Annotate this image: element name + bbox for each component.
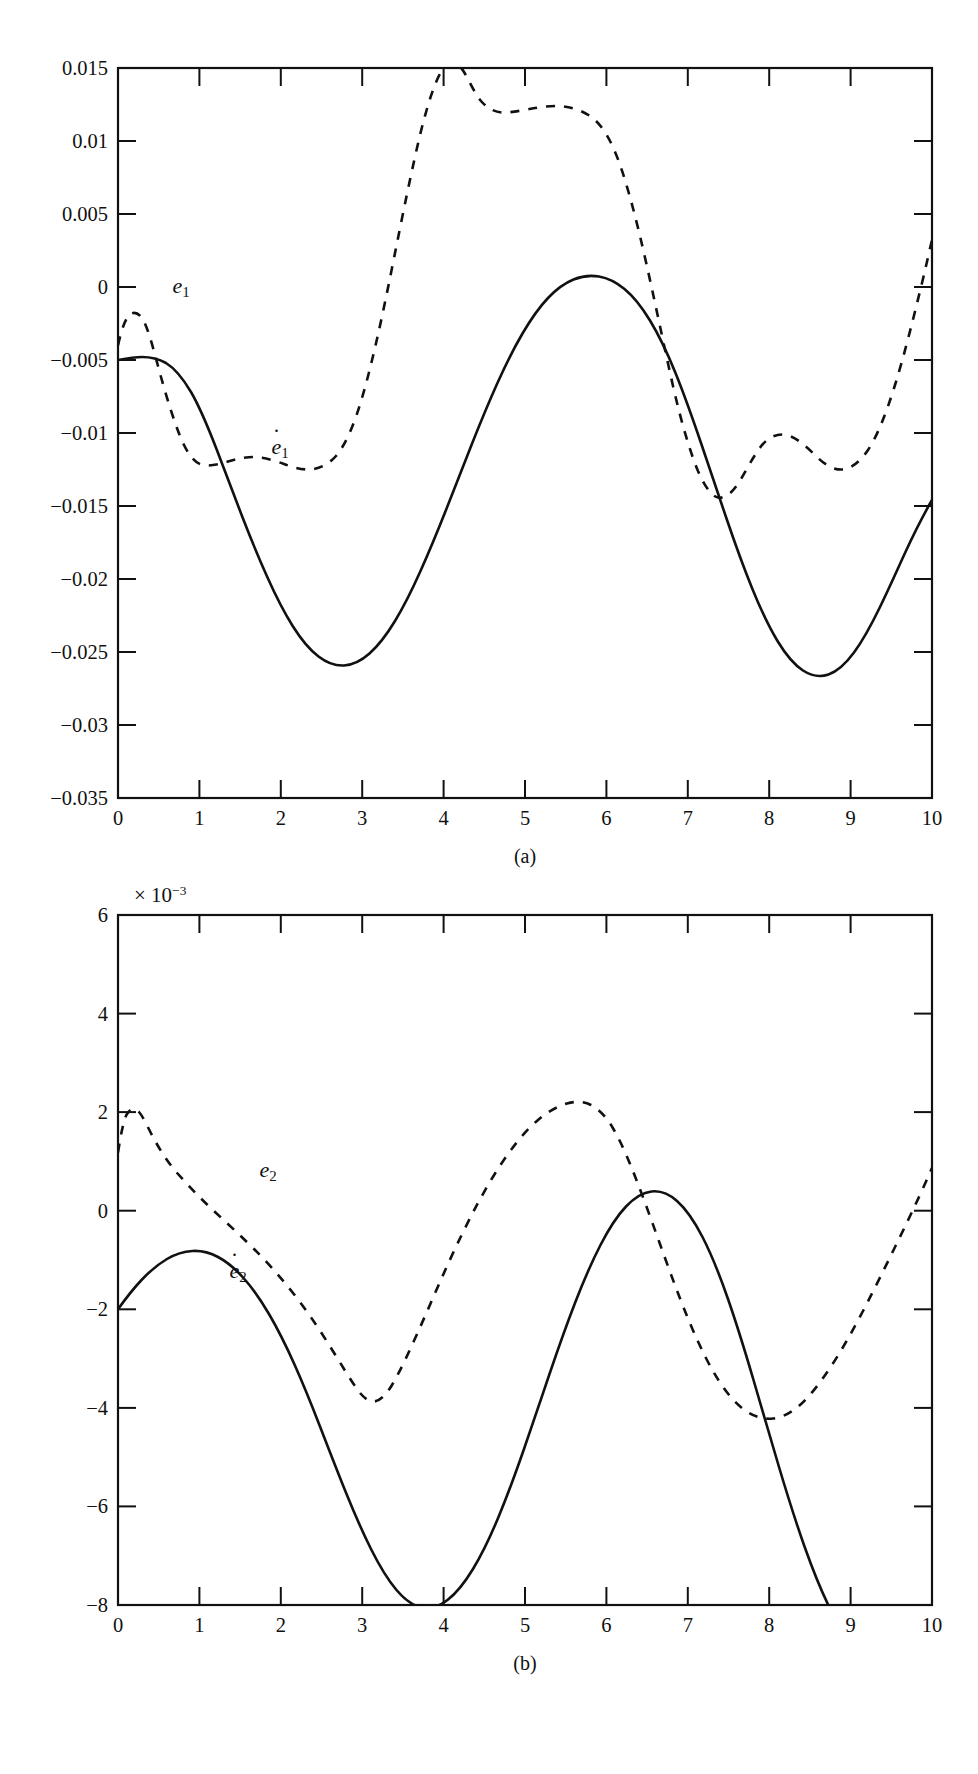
xtick-label-a-1: 1 [194, 808, 204, 829]
ytick-label-b-3: 0 [4, 1200, 108, 1221]
curve-label-e2-dot: ·e2 [229, 1258, 246, 1286]
ytick-label-a-8: −0.025 [4, 642, 108, 663]
ytick-label-a-10: −0.035 [4, 788, 108, 809]
ytick-label-a-6: −0.015 [4, 496, 108, 517]
y-ticks-a [118, 141, 136, 725]
ytick-label-b-6: −6 [4, 1496, 108, 1517]
xtick-label-a-8: 8 [764, 808, 774, 829]
xtick-label-b-4: 4 [438, 1615, 448, 1636]
ytick-label-a-2: 0.005 [4, 204, 108, 225]
y-ticks-b [118, 1014, 136, 1507]
x-ticks-b [199, 1587, 850, 1605]
xtick-label-b-2: 2 [276, 1615, 286, 1636]
derivative-dot-icon: · [231, 1245, 238, 1266]
xtick-label-b-10: 10 [922, 1615, 943, 1636]
xtick-label-b-9: 9 [845, 1615, 855, 1636]
ytick-label-b-4: −2 [4, 1299, 108, 1320]
curve-e1dot [118, 64, 932, 498]
plot-panel-b: × 10−3 6 4 2 0 −2 −4 −6 −8 0 1 2 3 4 5 6… [0, 880, 978, 1774]
ytick-label-b-7: −8 [4, 1595, 108, 1616]
axes-frame-a [118, 68, 932, 798]
x-ticks-a [199, 780, 850, 798]
xtick-label-b-8: 8 [764, 1615, 774, 1636]
plot-panel-a: 0.015 0.01 0.005 0 −0.005 −0.01 −0.015 −… [0, 0, 978, 880]
curve-e1 [118, 276, 932, 676]
xtick-label-b-0: 0 [113, 1615, 123, 1636]
ytick-label-a-9: −0.03 [4, 715, 108, 736]
curve-label-e1: e1 [172, 273, 189, 301]
plot-a-frame [118, 68, 932, 798]
scientific-figure: 0.015 0.01 0.005 0 −0.005 −0.01 −0.015 −… [0, 0, 978, 1774]
y-ticks-right-a [914, 141, 932, 725]
ytick-label-b-2: 2 [4, 1102, 108, 1123]
axis-multiplier-b: × 10−3 [134, 883, 186, 908]
xtick-label-b-3: 3 [357, 1615, 367, 1636]
ytick-label-a-7: −0.02 [4, 569, 108, 590]
plot-b-canvas [0, 880, 978, 1774]
ytick-label-a-1: 0.01 [4, 131, 108, 152]
ytick-label-b-5: −4 [4, 1398, 108, 1419]
xtick-label-a-3: 3 [357, 808, 367, 829]
curve-label-e2: e2 [259, 1157, 276, 1185]
x-ticks-top-b [199, 915, 850, 933]
y-ticks-right-b [914, 1014, 932, 1507]
xtick-label-a-2: 2 [276, 808, 286, 829]
ytick-label-a-0: 0.015 [4, 58, 108, 79]
xtick-label-a-4: 4 [438, 808, 448, 829]
xtick-label-b-6: 6 [601, 1615, 611, 1636]
xtick-label-b-7: 7 [683, 1615, 693, 1636]
ytick-label-a-5: −0.01 [4, 423, 108, 444]
x-ticks-top-a [199, 68, 850, 86]
plot-a-canvas [0, 0, 978, 880]
panel-caption-b: (b) [513, 1652, 536, 1675]
xtick-label-a-7: 7 [683, 808, 693, 829]
xtick-label-b-5: 5 [520, 1615, 530, 1636]
ytick-label-b-1: 4 [4, 1003, 108, 1024]
ytick-label-a-4: −0.005 [4, 350, 108, 371]
xtick-label-a-0: 0 [113, 808, 123, 829]
xtick-label-a-6: 6 [601, 808, 611, 829]
xtick-label-a-9: 9 [845, 808, 855, 829]
ytick-label-a-3: 0 [4, 277, 108, 298]
panel-caption-a: (a) [514, 845, 536, 868]
curve-label-e1-dot: ·e1 [271, 434, 288, 462]
derivative-dot-icon: · [273, 421, 280, 442]
ytick-label-b-0: 6 [4, 905, 108, 926]
xtick-label-a-10: 10 [922, 808, 943, 829]
xtick-label-a-5: 5 [520, 808, 530, 829]
xtick-label-b-1: 1 [194, 1615, 204, 1636]
